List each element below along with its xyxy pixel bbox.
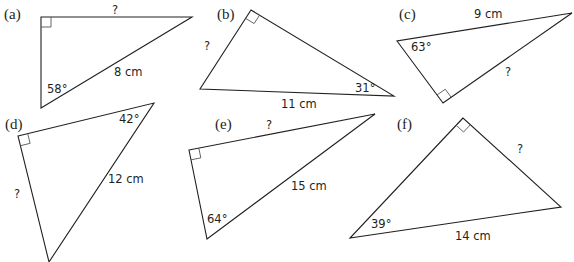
hypotenuse-label-e: 15 cm <box>291 181 327 193</box>
hypotenuse-label-a: 8 cm <box>114 67 143 79</box>
part-label-d: (d) <box>5 117 23 132</box>
unknown-side-c: ? <box>505 67 511 79</box>
angle-label-f: 39° <box>371 219 391 231</box>
angle-label-e: 64° <box>207 214 227 226</box>
angle-label-a: 58° <box>47 84 67 96</box>
angle-label-c: 63° <box>411 42 431 54</box>
unknown-side-e: ? <box>266 120 272 132</box>
part-label-c: (c) <box>399 7 416 22</box>
hypotenuse-label-d: 12 cm <box>108 174 144 186</box>
right-angle-marker-f <box>456 125 470 132</box>
part-label-e: (e) <box>215 117 232 132</box>
unknown-side-d: ? <box>14 189 20 201</box>
triangles-drawing <box>0 0 574 262</box>
part-label-f: (f) <box>397 117 412 132</box>
part-label-b: (b) <box>217 7 235 22</box>
right-angle-marker-c <box>437 89 451 97</box>
right-angle-marker-b <box>246 15 260 23</box>
unknown-side-a: ? <box>112 5 118 17</box>
unknown-side-f: ? <box>517 144 523 156</box>
hypotenuse-label-f: 14 cm <box>455 231 491 243</box>
hypotenuse-label-b: 11 cm <box>281 99 317 111</box>
angle-label-d: 42° <box>119 114 139 126</box>
triangle-c <box>397 13 572 103</box>
angle-label-b: 31° <box>355 83 375 95</box>
unknown-side-b: ? <box>204 41 210 53</box>
part-label-a: (a) <box>4 7 21 22</box>
triangles-figure: (a) ? 8 cm 58° (b) ? 11 cm 31° (c) ? 9 c… <box>0 0 574 262</box>
right-angle-marker-a <box>41 17 51 27</box>
hypotenuse-label-c: 9 cm <box>474 9 503 21</box>
